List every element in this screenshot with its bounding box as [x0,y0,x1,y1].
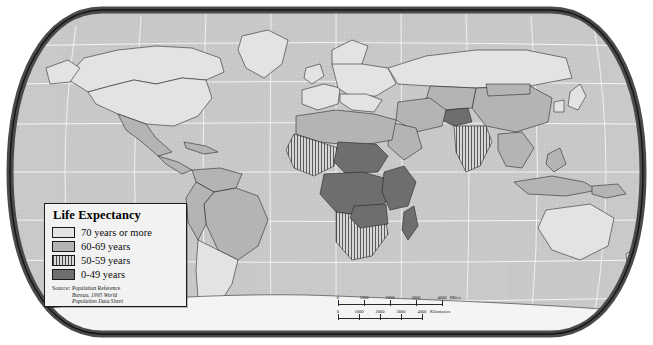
scale-num-m0: 0 [337,295,339,300]
source-line-3: Population Data Sheet [52,298,180,305]
scale-bar-kilometers: 0 1000 2000 3000 4000 Kilometers [338,312,478,323]
scale-tick-k2 [380,314,381,320]
scale-tick-m0 [338,300,339,306]
legend-swatch-60-69 [52,241,75,252]
legend-item-0-49[interactable]: 0-49 years [52,268,180,281]
scale-num-k1: 1000 [354,309,363,314]
scale-num-k3: 3000 [396,309,405,314]
country-korea [554,100,564,112]
legend-item-50-59[interactable]: 50-59 years [52,254,180,267]
scale-tick-k3 [401,314,402,320]
scale-num-k0: 0 [337,309,339,314]
scale-tick-k4 [422,314,423,320]
scale-bar: 0 1000 2000 3000 4000 Miles 0 1000 2000 … [338,298,478,324]
legend-swatch-50-59 [52,255,75,266]
legend-title: Life Expectancy [53,209,180,222]
country-mongolia [486,84,530,96]
legend-label-0-49: 0-49 years [81,269,125,280]
scale-num-m3: 3000 [411,295,420,300]
scale-num-k2: 2000 [375,309,384,314]
legend-item-70-plus[interactable]: 70 years or more [52,226,180,239]
scale-num-m4: 4000 [437,295,446,300]
legend-swatch-0-49 [52,269,75,280]
scale-tick-m2 [390,300,391,306]
legend-source: Source: Population Reference Bureau, 199… [52,285,180,305]
legend-label-50-59: 50-59 years [81,255,130,266]
legend-item-60-69[interactable]: 60-69 years [52,240,180,253]
legend-label-60-69: 60-69 years [81,241,130,252]
legend-label-70-plus: 70 years or more [81,227,152,238]
source-line-2: Bureau, 1995 World [52,292,180,299]
scale-unit-miles: Miles [450,295,460,300]
legend-swatch-70-plus [52,227,75,238]
scale-bar-miles: 0 1000 2000 3000 4000 Miles [338,298,478,309]
scale-tick-m4 [442,300,443,306]
legend-box[interactable]: Life Expectancy 70 years or more 60-69 y… [44,203,187,307]
scale-unit-kilometers: Kilometers [430,309,450,314]
scale-tick-k1 [359,314,360,320]
source-lead: Source: [52,285,71,291]
scale-num-k4: 4000 [417,309,426,314]
map-screenshot: Life Expectancy 70 years or more 60-69 y… [0,0,653,345]
scale-num-m2: 2000 [385,295,394,300]
scale-tick-m3 [416,300,417,306]
scale-num-m1: 1000 [359,295,368,300]
scale-tick-k0 [338,314,339,320]
source-line-1: Population Reference [72,285,120,291]
scale-tick-m1 [364,300,365,306]
